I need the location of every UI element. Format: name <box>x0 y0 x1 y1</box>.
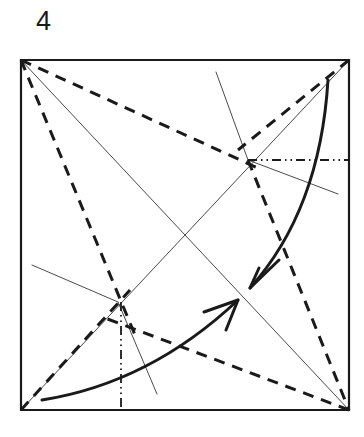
origami-diagram <box>0 0 364 437</box>
origami-figure: 4 <box>0 0 364 437</box>
